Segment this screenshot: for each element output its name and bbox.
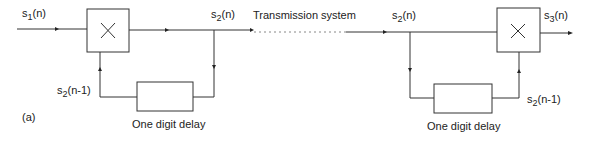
diagram-canvas	[0, 0, 589, 143]
arrow-icon	[408, 68, 412, 72]
decoder-output-label: s3(n)	[544, 9, 568, 24]
encoder-delay-label: One digit delay	[132, 118, 205, 130]
decoder-input-label: s2(n)	[392, 9, 416, 24]
decoder-delay-label: One digit delay	[427, 120, 500, 132]
arrow-icon	[568, 31, 573, 35]
encoder-input-label: s1(n)	[22, 7, 46, 22]
arrow-icon	[250, 28, 254, 32]
panel-label: (a)	[22, 111, 35, 123]
decoder-delay-box	[434, 84, 492, 113]
arrow-icon	[98, 67, 102, 71]
arrow-icon	[165, 28, 169, 32]
encoder-delay-box	[137, 82, 193, 111]
encoder-output-label: s2(n)	[211, 8, 235, 23]
arrow-icon	[383, 30, 387, 34]
encoder-feedback-label: s2(n-1)	[57, 84, 91, 99]
arrow-icon	[55, 27, 59, 31]
arrow-icon	[212, 65, 216, 69]
decoder-feedback-label: s2(n-1)	[527, 93, 561, 108]
transmission-label: Transmission system	[253, 9, 356, 21]
arrow-icon	[517, 69, 521, 73]
